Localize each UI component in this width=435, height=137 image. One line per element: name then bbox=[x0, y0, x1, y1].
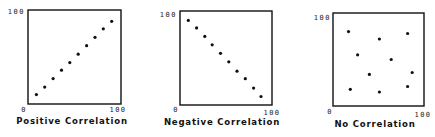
points-group bbox=[187, 19, 263, 98]
plot-frame bbox=[28, 10, 121, 104]
data-point bbox=[356, 53, 359, 56]
chart-title: No Correlation bbox=[334, 118, 415, 129]
data-point bbox=[219, 52, 222, 55]
data-point bbox=[406, 85, 409, 88]
y-tick-label-100: 100 bbox=[8, 8, 25, 16]
x-tick-label-100: 100 bbox=[109, 106, 126, 114]
data-point bbox=[411, 71, 414, 74]
data-point bbox=[227, 60, 230, 63]
data-point bbox=[211, 43, 214, 46]
chart-title: Positive Correlation bbox=[16, 115, 128, 126]
data-point bbox=[235, 70, 238, 73]
x-tick-label-0: 0 bbox=[327, 108, 333, 116]
data-point bbox=[85, 44, 88, 47]
data-point bbox=[68, 61, 71, 64]
data-point bbox=[187, 19, 190, 22]
data-point bbox=[347, 30, 350, 33]
data-point bbox=[102, 27, 105, 30]
data-point bbox=[378, 37, 381, 40]
data-point bbox=[252, 87, 255, 90]
data-point bbox=[195, 26, 198, 29]
chart-none: 100 0 100 No Correlation bbox=[314, 13, 432, 129]
data-point bbox=[93, 36, 96, 39]
data-point bbox=[244, 77, 247, 80]
data-point bbox=[43, 86, 46, 89]
data-point bbox=[259, 95, 262, 98]
chart-title: Negative Correlation bbox=[164, 116, 280, 127]
data-point bbox=[203, 35, 206, 38]
data-point bbox=[349, 88, 352, 91]
correlation-figure: 100 0 100 Positive Correlation 100 0 100… bbox=[0, 0, 435, 137]
y-tick-label-100: 100 bbox=[160, 11, 177, 19]
x-tick-label-0: 0 bbox=[173, 106, 179, 114]
chart-negative: 100 0 100 Negative Correlation bbox=[160, 11, 281, 127]
chart-positive: 100 0 100 Positive Correlation bbox=[8, 8, 128, 126]
y-tick-label-100: 100 bbox=[314, 14, 331, 22]
data-point bbox=[406, 32, 409, 35]
x-tick-label-0: 0 bbox=[21, 106, 27, 114]
data-point bbox=[110, 20, 113, 23]
data-point bbox=[35, 93, 38, 96]
data-point bbox=[60, 69, 63, 72]
points-group bbox=[35, 20, 113, 97]
points-group bbox=[347, 30, 414, 94]
x-tick-label-100: 100 bbox=[414, 111, 431, 119]
data-point bbox=[77, 53, 80, 56]
data-point bbox=[52, 77, 55, 80]
data-point bbox=[368, 73, 371, 76]
data-point bbox=[390, 58, 393, 61]
data-point bbox=[378, 90, 381, 93]
plot-frame bbox=[180, 11, 272, 105]
